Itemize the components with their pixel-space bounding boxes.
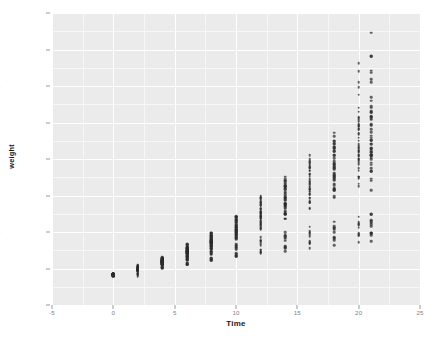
y-axis-tick-mark xyxy=(46,49,50,50)
data-point xyxy=(357,137,360,140)
data-point xyxy=(235,226,238,229)
data-point xyxy=(370,164,373,167)
data-point xyxy=(357,139,360,142)
data-point xyxy=(333,140,336,143)
gridline-major-vertical xyxy=(52,13,53,305)
y-axis-tick-mark xyxy=(46,195,50,196)
data-point xyxy=(333,164,336,167)
data-point xyxy=(235,216,238,219)
y-axis-tick-mark xyxy=(46,232,50,233)
data-point xyxy=(284,193,287,196)
data-point xyxy=(308,226,311,229)
data-point xyxy=(284,202,287,205)
data-point xyxy=(357,223,360,226)
data-point xyxy=(235,238,238,241)
data-point xyxy=(308,169,311,172)
data-point xyxy=(370,81,373,84)
data-point xyxy=(161,262,164,265)
data-point xyxy=(357,70,360,73)
data-point xyxy=(357,183,360,186)
gridline-major-vertical xyxy=(113,13,114,305)
x-axis-tick-label: -5 xyxy=(49,309,55,316)
data-point xyxy=(370,31,373,34)
y-axis-tick-mark xyxy=(46,86,50,87)
x-axis-tick-mark xyxy=(113,305,114,309)
data-point xyxy=(308,193,311,196)
data-point xyxy=(357,62,360,65)
data-point xyxy=(357,133,360,136)
data-point xyxy=(370,124,373,127)
data-point xyxy=(284,188,287,191)
data-point xyxy=(284,196,287,199)
data-point xyxy=(259,240,262,243)
data-point xyxy=(161,257,164,260)
data-point xyxy=(333,237,336,240)
data-point xyxy=(210,233,213,236)
data-point xyxy=(357,164,360,167)
data-point xyxy=(370,137,373,140)
data-point xyxy=(235,255,238,258)
data-point xyxy=(357,128,360,131)
x-axis-tick-mark xyxy=(297,305,298,309)
y-axis-tick-mark xyxy=(46,13,50,14)
data-point xyxy=(370,96,373,99)
data-point xyxy=(186,258,189,261)
data-point xyxy=(186,245,189,248)
data-point xyxy=(259,197,262,200)
data-point xyxy=(357,158,360,161)
data-point xyxy=(235,231,238,234)
data-point xyxy=(370,99,373,102)
data-point xyxy=(333,189,336,192)
data-point xyxy=(235,246,238,249)
x-axis-tick-label: 25 xyxy=(416,309,423,316)
data-point xyxy=(284,250,287,253)
data-point xyxy=(370,232,373,235)
data-point xyxy=(357,233,360,236)
data-point xyxy=(308,247,311,250)
x-axis-title: Time xyxy=(52,319,420,328)
data-point xyxy=(370,107,373,110)
data-point xyxy=(284,210,287,213)
data-point xyxy=(235,221,238,224)
data-point xyxy=(333,195,336,198)
data-point xyxy=(308,188,311,191)
data-point xyxy=(161,267,164,270)
data-point xyxy=(259,252,262,255)
x-axis-tick-mark xyxy=(236,305,237,309)
data-point xyxy=(284,231,287,234)
data-point xyxy=(259,228,262,231)
data-point xyxy=(357,81,360,84)
data-point xyxy=(357,241,360,244)
data-point xyxy=(357,145,360,148)
gridline-major-vertical xyxy=(297,13,298,305)
data-point xyxy=(259,222,262,225)
data-point xyxy=(308,202,311,205)
data-point xyxy=(284,245,287,248)
gridline-major-vertical xyxy=(175,13,176,305)
data-point xyxy=(333,150,336,153)
data-point xyxy=(370,131,373,134)
data-point xyxy=(210,253,213,256)
x-axis-tick-label: 20 xyxy=(355,309,362,316)
data-point xyxy=(112,274,115,277)
data-point xyxy=(333,179,336,182)
data-point xyxy=(357,176,360,179)
data-point xyxy=(370,170,373,173)
x-axis-tick-label: 10 xyxy=(232,309,239,316)
data-point xyxy=(259,218,262,221)
data-point xyxy=(333,131,336,134)
data-point xyxy=(357,150,360,153)
data-point xyxy=(357,117,360,120)
data-point xyxy=(308,241,311,244)
data-point xyxy=(137,275,140,278)
data-point xyxy=(210,259,213,262)
data-point xyxy=(370,128,373,131)
data-point xyxy=(370,55,373,58)
data-point xyxy=(186,254,189,257)
y-axis-tick-mark xyxy=(46,122,50,123)
data-point xyxy=(308,161,311,164)
data-point xyxy=(333,227,336,230)
data-point xyxy=(333,184,336,187)
data-point xyxy=(357,169,360,172)
data-point xyxy=(370,177,373,180)
